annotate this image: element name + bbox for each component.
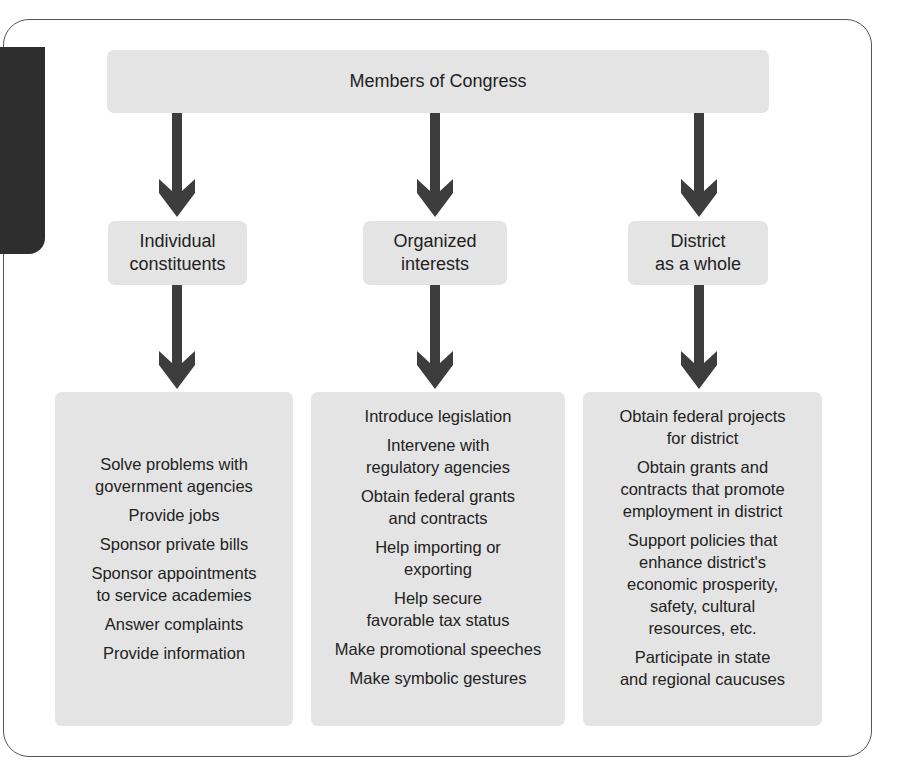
activity-item: Obtain grants and contracts that promote… <box>620 456 784 522</box>
activity-item: Sponsor appointments to service academie… <box>91 562 256 606</box>
category-label: Organized interests <box>393 230 476 276</box>
activity-item: Sponsor private bills <box>100 533 249 555</box>
arrow-down-icon <box>679 285 719 391</box>
organized-interests-activities: Introduce legislation Intervene with reg… <box>311 392 565 726</box>
activity-item: Answer complaints <box>105 613 243 635</box>
activity-item: Support policies that enhance district's… <box>627 529 778 639</box>
activity-item: Participate in state and regional caucus… <box>620 646 785 690</box>
side-tab <box>0 47 45 254</box>
activity-item: Obtain federal grants and contracts <box>361 485 515 529</box>
activity-item: Provide information <box>103 642 245 664</box>
individual-constituents-box: Individual constituents <box>108 221 247 285</box>
activity-item: Help importing or exporting <box>375 536 501 580</box>
activity-item: Make promotional speeches <box>335 638 541 660</box>
arrow-down-icon <box>157 285 197 391</box>
activity-item: Introduce legislation <box>365 405 512 427</box>
activity-item: Solve problems with government agencies <box>95 453 253 497</box>
individual-constituents-activities: Solve problems with government agencies … <box>55 392 293 726</box>
arrow-down-icon <box>679 113 719 219</box>
activity-item: Obtain federal projects for district <box>619 405 785 449</box>
category-label: Individual constituents <box>129 230 225 276</box>
organized-interests-box: Organized interests <box>363 221 507 285</box>
members-of-congress-label: Members of Congress <box>349 71 526 92</box>
category-label: District as a whole <box>655 230 741 276</box>
arrow-down-icon <box>157 113 197 219</box>
district-as-a-whole-box: District as a whole <box>628 221 768 285</box>
activity-item: Provide jobs <box>129 504 220 526</box>
members-of-congress-box: Members of Congress <box>107 50 769 113</box>
arrow-down-icon <box>415 113 455 219</box>
arrow-down-icon <box>415 285 455 391</box>
district-as-a-whole-activities: Obtain federal projects for district Obt… <box>583 392 822 726</box>
activity-item: Help secure favorable tax status <box>366 587 509 631</box>
activity-item: Make symbolic gestures <box>350 667 527 689</box>
activity-item: Intervene with regulatory agencies <box>366 434 510 478</box>
